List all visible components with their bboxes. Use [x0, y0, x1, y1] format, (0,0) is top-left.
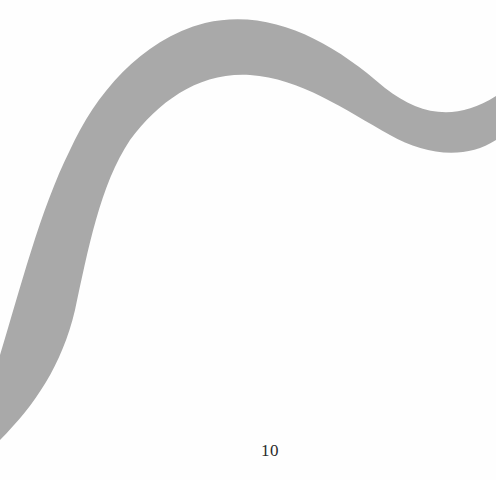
s-curve-band [0, 19, 496, 440]
curved-band-graphic [0, 0, 496, 480]
document-page: 10 [0, 0, 496, 480]
page-number: 10 [0, 441, 496, 461]
